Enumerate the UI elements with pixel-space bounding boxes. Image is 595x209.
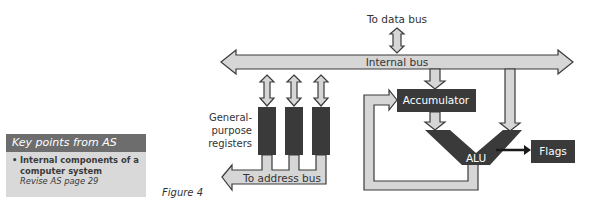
data-bus-label: To data bus <box>366 13 427 25</box>
alu-to-flags-arrowhead <box>524 145 531 155</box>
register-2 <box>285 107 303 155</box>
flags-label: Flags <box>539 145 567 157</box>
internal-bus-label: Internal bus <box>366 56 429 68</box>
cpu-diagram: To data bus Internal bus General- purpos… <box>0 0 595 209</box>
register-1-arrow <box>260 75 274 106</box>
registers-label-line3: registers <box>208 138 252 149</box>
register-2-arrow <box>287 75 301 106</box>
accumulator-label: Accumulator <box>403 94 470 106</box>
registers-label-line2: purpose <box>211 125 252 136</box>
register-3-arrow <box>314 75 328 106</box>
register-3 <box>312 107 330 155</box>
data-bus-arrow <box>390 28 404 53</box>
bus-to-accumulator-arrow <box>425 69 445 89</box>
bus-to-alu-arrow <box>500 69 520 131</box>
alu-label: ALU <box>466 152 486 164</box>
register-1 <box>258 107 276 155</box>
address-bus-label: To address bus <box>242 172 321 184</box>
accumulator-to-alu-arrow <box>425 112 445 130</box>
registers-label-line1: General- <box>209 112 252 123</box>
